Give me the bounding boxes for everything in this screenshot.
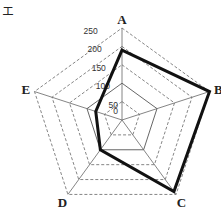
axis-spoke-C [122, 120, 176, 194]
category-label-B: B [214, 82, 221, 97]
category-label-A: A [117, 12, 127, 27]
category-label-D: D [58, 195, 67, 210]
tick-label-50: 50 [109, 100, 119, 110]
tick-label-250: 250 [84, 26, 98, 36]
category-label-C: C [177, 195, 186, 210]
category-labels: ABCDE [21, 12, 221, 210]
category-label-E: E [21, 82, 30, 97]
axis-spoke-B [122, 92, 209, 120]
tick-label-150: 150 [92, 63, 106, 73]
tick-label-200: 200 [88, 44, 102, 54]
radar-chart: 050100150200250 ABCDE [0, 0, 221, 213]
